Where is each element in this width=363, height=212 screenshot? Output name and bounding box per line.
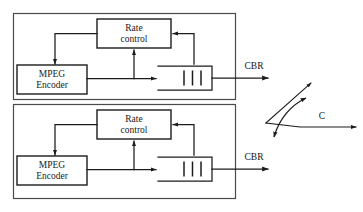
- mpeg-encoder-label-line2-lower: Encoder: [36, 171, 68, 181]
- buffer-queue-lower[interactable]: [158, 157, 212, 181]
- cbr-label-lower: CBR: [244, 152, 264, 162]
- wire-buffer-to-ratecontrol-lower: [173, 125, 194, 156]
- rate-control-label-line1-lower: Rate: [125, 114, 142, 124]
- encoder-group-upper: Rate control MPEG Encoder C: [14, 14, 269, 100]
- wire-buffer-to-ratecontrol-upper: [173, 34, 194, 65]
- wire-mux-diagonal-up: [266, 83, 311, 123]
- encoder-group-lower: Rate control MPEG Encoder C: [14, 105, 269, 199]
- mpeg-encoder-label-line1-lower: MPEG: [39, 160, 66, 170]
- bandwidth-sharing-arc: [274, 98, 306, 137]
- wire-ratecontrol-to-encoder-upper: [55, 34, 97, 65]
- rate-control-label-line2-upper: control: [121, 34, 148, 44]
- system-block-diagram: Rate control MPEG Encoder C: [0, 0, 363, 212]
- link-capacity-label: C: [319, 111, 325, 121]
- mpeg-encoder-label-line2-upper: Encoder: [36, 80, 68, 90]
- shared-link-junction: C: [266, 83, 356, 137]
- rate-control-label-line1-upper: Rate: [125, 23, 142, 33]
- cbr-label-upper: CBR: [244, 61, 264, 71]
- buffer-queue-upper[interactable]: [158, 66, 212, 90]
- wire-ratecontrol-to-encoder-lower: [55, 125, 97, 156]
- rate-control-label-line2-lower: control: [121, 125, 148, 135]
- diagram-canvas: Rate control MPEG Encoder C: [0, 0, 363, 212]
- mpeg-encoder-label-line1-upper: MPEG: [39, 69, 66, 79]
